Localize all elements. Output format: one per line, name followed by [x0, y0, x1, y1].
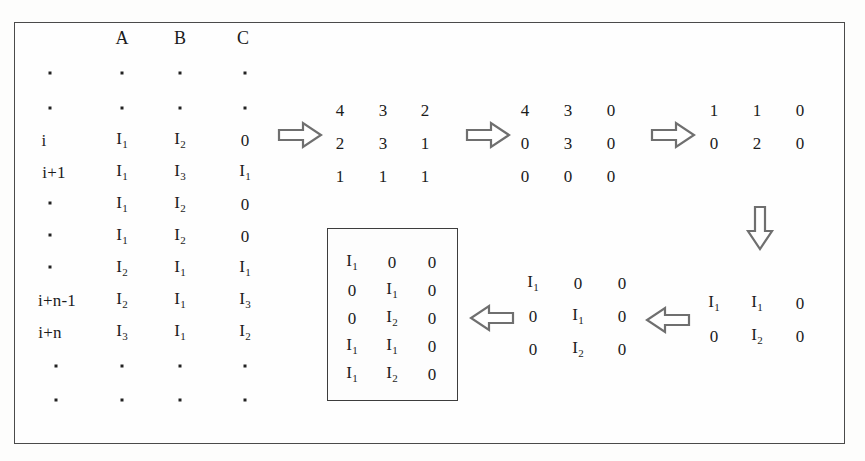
table-cell: I3 — [174, 162, 185, 181]
row-label-dot — [55, 399, 58, 402]
column-header-c: C — [237, 29, 249, 47]
matrix-cell: I1 — [346, 364, 357, 383]
matrix-cell: 1 — [379, 168, 388, 185]
table-cell: I1 — [174, 322, 185, 341]
table-cell-dot — [121, 107, 124, 110]
matrix-cell: I2 — [386, 364, 397, 383]
matrix-cell: 2 — [336, 135, 345, 152]
matrix-cell: 0 — [521, 168, 530, 185]
matrix-cell: 1 — [710, 102, 719, 119]
table-cell: I2 — [174, 194, 185, 213]
row-label-dot — [49, 234, 52, 237]
matrix-cell: 0 — [388, 254, 397, 271]
matrix-cell: 3 — [379, 135, 388, 152]
matrix-cell: 0 — [348, 310, 357, 327]
matrix-cell: 2 — [753, 135, 762, 152]
figure-canvas: A B C i I1 I2 0 i+1 I1 I3 I1 I1 I2 0 I1 … — [0, 0, 865, 461]
matrix-cell: 0 — [428, 254, 437, 271]
matrix-cell: I1 — [572, 306, 583, 325]
matrix-cell: 0 — [348, 282, 357, 299]
matrix-cell: 1 — [753, 102, 762, 119]
table-cell: I1 — [116, 226, 127, 245]
column-header-a: A — [115, 29, 128, 47]
matrix-cell: 0 — [529, 341, 538, 358]
matrix-cell: 0 — [564, 168, 573, 185]
arrow-count-to-filtered-matrix — [465, 120, 511, 150]
matrix-cell: I2 — [386, 308, 397, 327]
table-cell-dot — [121, 365, 124, 368]
matrix-cell: 0 — [796, 328, 805, 345]
matrix-cell: 0 — [796, 135, 805, 152]
row-label-dot — [49, 107, 52, 110]
matrix-cell: 0 — [796, 102, 805, 119]
row-label-dot — [49, 266, 52, 269]
matrix-cell: 0 — [428, 338, 437, 355]
table-cell: I2 — [116, 258, 127, 277]
table-cell: I2 — [174, 226, 185, 245]
matrix-cell: 0 — [710, 328, 719, 345]
table-cell-dot — [179, 107, 182, 110]
matrix-cell: I2 — [572, 339, 583, 358]
matrix-cell: 0 — [428, 310, 437, 327]
matrix-cell: I1 — [346, 336, 357, 355]
matrix-cell: 0 — [618, 308, 627, 325]
row-label-dot — [55, 365, 58, 368]
row-label-i-plus-1: i+1 — [42, 164, 65, 181]
matrix-cell: 1 — [421, 168, 430, 185]
matrix-cell: 4 — [336, 102, 345, 119]
arrow-symbolic-pair-to-triple — [645, 305, 691, 335]
matrix-cell: 1 — [421, 135, 430, 152]
table-cell-dot — [179, 399, 182, 402]
table-cell-dot — [121, 399, 124, 402]
matrix-cell: 1 — [336, 168, 345, 185]
table-cell: I1 — [116, 162, 127, 181]
table-cell-dot — [244, 365, 247, 368]
arrow-triple-to-boxed-result — [469, 303, 515, 333]
table-cell-dot — [179, 365, 182, 368]
matrix-cell: 0 — [607, 168, 616, 185]
matrix-cell: 4 — [521, 102, 530, 119]
row-label-i: i — [42, 132, 47, 149]
arrow-reduced-to-symbolic-pair — [744, 205, 776, 251]
table-cell-dot — [179, 72, 182, 75]
matrix-cell: 0 — [796, 295, 805, 312]
matrix-cell: 3 — [564, 135, 573, 152]
row-label-dot — [49, 202, 52, 205]
matrix-cell: I1 — [386, 336, 397, 355]
matrix-cell: I1 — [346, 252, 357, 271]
arrow-table-to-count-matrix — [277, 120, 323, 150]
table-cell: I2 — [174, 130, 185, 149]
matrix-cell: I1 — [386, 280, 397, 299]
table-cell: I1 — [116, 130, 127, 149]
matrix-cell: 0 — [607, 102, 616, 119]
row-label-i-plus-n: i+n — [38, 324, 61, 341]
matrix-cell: 0 — [521, 135, 530, 152]
matrix-cell: 0 — [428, 282, 437, 299]
matrix-cell: 0 — [428, 366, 437, 383]
matrix-cell: 0 — [618, 341, 627, 358]
table-cell: I1 — [174, 258, 185, 277]
table-cell: 0 — [241, 196, 250, 213]
row-label-dot — [49, 72, 52, 75]
matrix-cell: I1 — [708, 293, 719, 312]
matrix-cell: 0 — [529, 308, 538, 325]
arrow-filtered-to-reduced-matrix — [650, 120, 696, 150]
table-cell-dot — [244, 72, 247, 75]
table-cell-dot — [244, 399, 247, 402]
table-cell: I1 — [174, 290, 185, 309]
matrix-cell: 2 — [421, 102, 430, 119]
matrix-cell: 3 — [564, 102, 573, 119]
matrix-cell: I2 — [751, 326, 762, 345]
matrix-cell: 0 — [574, 275, 583, 292]
table-cell: I1 — [239, 162, 250, 181]
column-header-b: B — [174, 29, 186, 47]
row-label-i-plus-n-minus-1: i+n-1 — [38, 292, 76, 309]
matrix-cell: I1 — [527, 273, 538, 292]
table-cell-dot — [121, 72, 124, 75]
matrix-cell: 0 — [710, 135, 719, 152]
matrix-cell: 0 — [607, 135, 616, 152]
table-cell: I3 — [239, 290, 250, 309]
table-cell: 0 — [241, 228, 250, 245]
matrix-cell: I1 — [751, 293, 762, 312]
table-cell: I3 — [116, 322, 127, 341]
